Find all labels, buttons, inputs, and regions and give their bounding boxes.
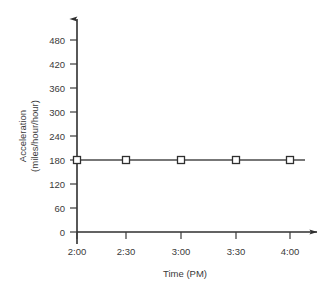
x-tick-label-2-00: 2:00 (68, 246, 87, 257)
x-tick-label-3-30: 3:30 (227, 246, 246, 257)
y-axis-title: Acceleration (miles/hour/hour) (17, 100, 40, 172)
y-tick-label-420: 420 (49, 59, 65, 70)
x-tick-label-2-30: 2:30 (117, 246, 136, 257)
acceleration-vs-time-chart: 480 420 360 300 240 180 120 60 0 2:00 2:… (0, 0, 334, 293)
y-tick-label-480: 480 (49, 35, 65, 46)
x-axis-title: Time (PM) (163, 268, 207, 279)
data-point-marker (74, 157, 81, 164)
y-tick-label-180: 180 (49, 155, 65, 166)
data-point-marker (287, 157, 294, 164)
y-tick-label-0: 0 (60, 227, 65, 238)
y-axis-title-line1: Acceleration (17, 110, 28, 162)
y-tick-label-360: 360 (49, 83, 65, 94)
data-point-marker (233, 157, 240, 164)
y-tick-label-240: 240 (49, 131, 65, 142)
chart-canvas: 480 420 360 300 240 180 120 60 0 2:00 2:… (0, 0, 334, 293)
y-tick-label-60: 60 (54, 203, 65, 214)
y-axis-title-line2: (miles/hour/hour) (29, 100, 40, 172)
x-tick-label-3-00: 3:00 (172, 246, 191, 257)
data-point-marker (178, 157, 185, 164)
data-point-marker (123, 157, 130, 164)
y-tick-label-300: 300 (49, 107, 65, 118)
y-tick-label-120: 120 (49, 179, 65, 190)
x-tick-label-4-00: 4:00 (281, 246, 300, 257)
